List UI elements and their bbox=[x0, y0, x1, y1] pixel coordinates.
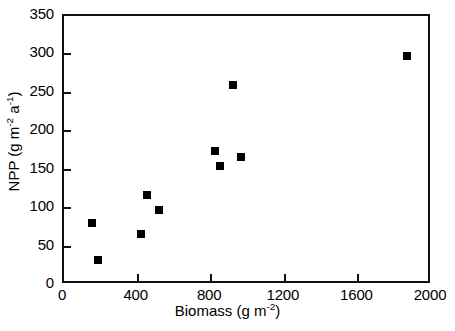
y-axis-tick bbox=[64, 246, 71, 248]
data-point-marker bbox=[137, 230, 145, 238]
x-axis-tick-label: 400 bbox=[123, 287, 147, 302]
y-axis-tick-label: 350 bbox=[0, 6, 54, 21]
x-axis-title-text: Biomass (g m bbox=[175, 302, 267, 319]
data-point-marker bbox=[216, 162, 224, 170]
x-axis-tick-label: 1600 bbox=[340, 287, 373, 302]
x-axis-tick bbox=[357, 274, 359, 281]
data-point-marker bbox=[143, 191, 151, 199]
data-point-marker bbox=[94, 256, 102, 264]
plot-area bbox=[62, 14, 430, 283]
y-axis-title: NPP (g m-2 a-1) bbox=[6, 92, 23, 192]
x-axis-tick bbox=[284, 274, 286, 281]
y-axis-tick-label: 100 bbox=[0, 198, 54, 213]
x-axis-title: Biomass (g m-2) bbox=[0, 302, 455, 319]
y-axis-title-mid: a bbox=[6, 105, 23, 118]
y-axis-tick bbox=[64, 130, 71, 132]
data-point-marker bbox=[237, 153, 245, 161]
x-axis-tick-label: 800 bbox=[197, 287, 221, 302]
data-point-marker bbox=[211, 147, 219, 155]
scatter-chart-figure: NPP (g m-2 a-1) Biomass (g m-2) 05010015… bbox=[0, 0, 455, 331]
y-axis-tick-label: 250 bbox=[0, 83, 54, 98]
x-axis-tick bbox=[137, 274, 139, 281]
data-point-marker bbox=[88, 219, 96, 227]
x-axis-tick-label: 2000 bbox=[414, 287, 447, 302]
y-axis-tick-label: 300 bbox=[0, 44, 54, 59]
x-axis-tick-label: 0 bbox=[58, 287, 66, 302]
x-axis-title-tail: ) bbox=[275, 302, 280, 319]
x-axis-tick bbox=[210, 274, 212, 281]
y-axis-tick-label: 150 bbox=[0, 160, 54, 175]
data-point-marker bbox=[155, 206, 163, 214]
y-axis-tick-label: 200 bbox=[0, 121, 54, 136]
y-axis-tick-label: 50 bbox=[0, 237, 54, 252]
y-axis-tick bbox=[64, 169, 71, 171]
x-axis-tick-label: 1200 bbox=[267, 287, 300, 302]
y-axis-title-sup-time: -1 bbox=[5, 97, 16, 106]
y-axis-tick bbox=[64, 53, 71, 55]
data-point-marker bbox=[403, 52, 411, 60]
y-axis-tick bbox=[64, 207, 71, 209]
y-axis-tick-label: 0 bbox=[0, 275, 54, 290]
y-axis-tick bbox=[64, 92, 71, 94]
data-point-marker bbox=[229, 81, 237, 89]
